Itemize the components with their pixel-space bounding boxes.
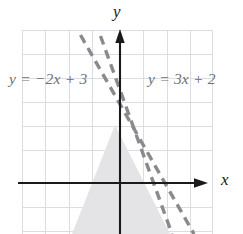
equation-label-right: y = 3x + 2 <box>148 70 216 88</box>
graph-figure: y = −2x + 3 y = 3x + 2 y x <box>0 0 243 234</box>
x-axis-label: x <box>221 170 229 190</box>
y-axis-label: y <box>113 2 121 22</box>
coordinate-plane <box>0 0 243 234</box>
equation-label-left: y = −2x + 3 <box>9 70 87 88</box>
y-axis-arrow-icon <box>115 29 124 43</box>
x-axis-arrow-icon <box>194 178 208 187</box>
